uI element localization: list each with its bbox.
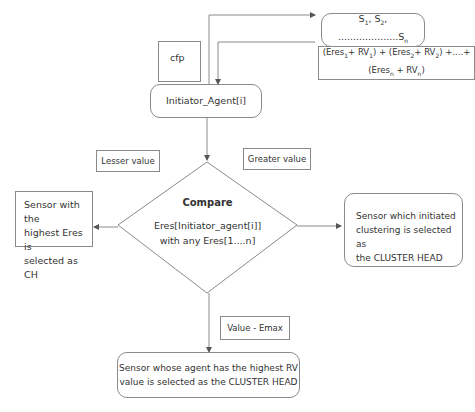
left-result-line-2: highest Eres is xyxy=(24,226,92,254)
cfp-label: cfp xyxy=(170,52,185,63)
greater-value-label-box: Greater value xyxy=(243,148,311,170)
compare-line-2: with any Eres[1....n] xyxy=(140,233,275,248)
initiator-agent-label: Initiator_Agent[i] xyxy=(166,94,246,108)
compare-title: Compare xyxy=(140,195,275,210)
right-result-line-3: the CLUSTER HEAD xyxy=(356,251,462,265)
value-emax-label: Value - Emax xyxy=(227,321,283,335)
sensors-label: S1, S2, ....................Sn xyxy=(322,12,424,48)
compare-text: Compare Eres[Initiator_agent[i]] with an… xyxy=(140,195,275,248)
value-emax-label-box: Value - Emax xyxy=(220,316,290,340)
bottom-result-line-2: value is selected as the CLUSTER HEAD xyxy=(119,375,297,389)
right-result-line-2: clustering is selected as xyxy=(356,223,462,251)
left-result-line-1: Sensor with the xyxy=(24,198,92,226)
left-result-line-3: selected as CH xyxy=(24,254,92,282)
bottom-result-node: Sensor whose agent has the highest RV va… xyxy=(117,352,300,398)
lesser-value-label: Lesser value xyxy=(101,154,154,168)
right-result-node: Sensor which initiated clustering is sel… xyxy=(344,193,463,267)
cfp-node: cfp xyxy=(158,41,201,82)
lesser-value-label-box: Lesser value xyxy=(96,150,160,172)
sum-formula-node: (Eres1+ RV1) + (Eres2+ RV2) +....+ (Eres… xyxy=(318,46,475,80)
greater-value-label: Greater value xyxy=(248,152,306,166)
bottom-result-line-1: Sensor whose agent has the highest RV xyxy=(119,361,298,375)
sum-formula-label: (Eres1+ RV1) + (Eres2+ RV2) +....+ (Eres… xyxy=(319,45,474,80)
right-result-line-1: Sensor which initiated xyxy=(356,209,462,223)
sensors-node: S1, S2, ....................Sn xyxy=(321,13,425,47)
initiator-agent-node: Initiator_Agent[i] xyxy=(150,84,262,118)
left-result-node: Sensor with the highest Eres is selected… xyxy=(15,191,93,247)
compare-line-1: Eres[Initiator_agent[i]] xyxy=(140,218,275,233)
